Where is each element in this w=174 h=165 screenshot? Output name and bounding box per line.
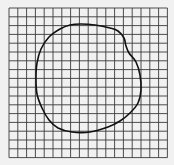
grid-figure <box>0 0 174 165</box>
square-grid <box>9 8 167 158</box>
